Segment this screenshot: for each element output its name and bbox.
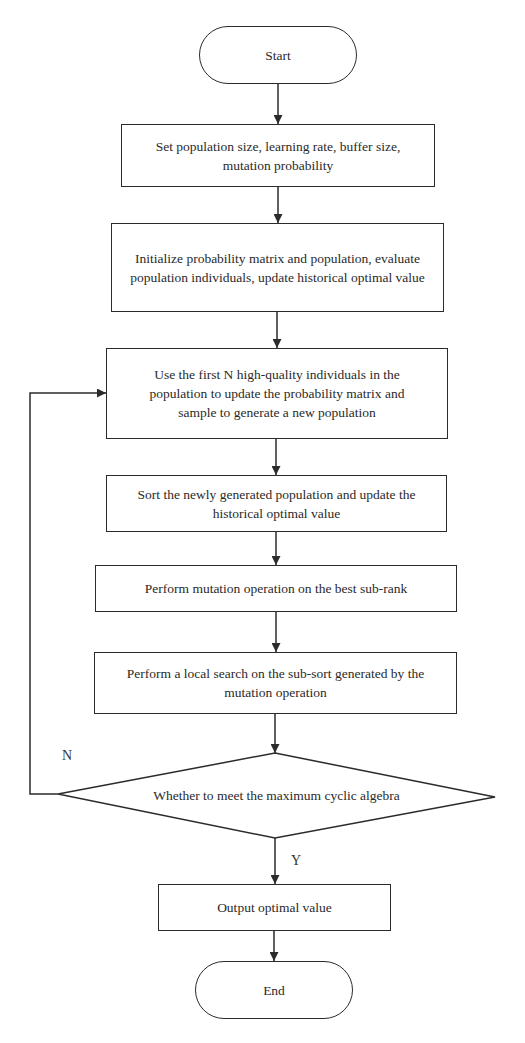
step-mutation: Perform mutation operation on the best s… xyxy=(95,565,457,612)
output-label: Output optimal value xyxy=(217,898,332,917)
step-update-probability-matrix: Use the first N high-quality individuals… xyxy=(106,348,448,439)
step-sort-population: Sort the newly generated population and … xyxy=(106,475,447,532)
start-terminal: Start xyxy=(199,26,357,84)
no-branch-label: N xyxy=(62,748,72,764)
step-local-search: Perform a local search on the sub-sort g… xyxy=(94,652,457,714)
step-label: Initialize probability matrix and popula… xyxy=(124,249,431,287)
step-label: Perform mutation operation on the best s… xyxy=(145,579,407,598)
start-label: Start xyxy=(265,46,291,65)
end-terminal: End xyxy=(195,961,353,1019)
step-set-parameters: Set population size, learning rate, buff… xyxy=(121,124,435,187)
step-label: Perform a local search on the sub-sort g… xyxy=(103,664,448,702)
step-initialize: Initialize probability matrix and popula… xyxy=(111,223,444,312)
yes-branch-label: Y xyxy=(291,853,301,869)
end-label: End xyxy=(263,981,285,1000)
step-label: Use the first N high-quality individuals… xyxy=(129,365,425,422)
step-label: Set population size, learning rate, buff… xyxy=(136,137,420,175)
step-label: Sort the newly generated population and … xyxy=(117,485,436,523)
decision-label: Whether to meet the maximum cyclic algeb… xyxy=(58,786,495,805)
output-optimal-value: Output optimal value xyxy=(158,884,391,931)
